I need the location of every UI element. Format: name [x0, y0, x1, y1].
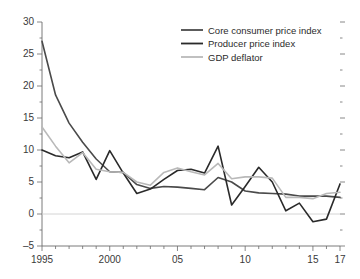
y-tick-group [37, 22, 42, 246]
legend-label: GDP deflator [208, 52, 263, 63]
x-tick-label-group: 1995200005101517 [31, 254, 346, 265]
y-right-tick-group [340, 22, 345, 246]
series-line [42, 41, 340, 197]
series-group [42, 41, 340, 221]
y-tick-label: –5 [23, 240, 35, 251]
chart-container: 302520151050–5 1995200005101517 Core con… [0, 0, 360, 279]
y-axis: 302520151050–5 [23, 16, 345, 251]
legend-label: Core consumer price index [208, 25, 322, 36]
y-tick-label: 15 [23, 112, 35, 123]
x-tick-label: 15 [307, 254, 319, 265]
y-tick-label-group: 302520151050–5 [23, 16, 35, 251]
y-tick-label: 30 [23, 16, 35, 27]
x-tick-group [42, 246, 340, 251]
y-tick-label: 5 [28, 176, 34, 187]
y-tick-label: 10 [23, 144, 35, 155]
x-tick-label: 17 [334, 254, 346, 265]
x-tick-label: 10 [240, 254, 252, 265]
y-tick-label: 0 [28, 208, 34, 219]
y-tick-label: 20 [23, 80, 35, 91]
x-tick-label: 2000 [99, 254, 122, 265]
y-tick-label: 25 [23, 48, 35, 59]
chart-legend: Core consumer price indexProducer price … [181, 25, 322, 63]
line-chart: 302520151050–5 1995200005101517 Core con… [0, 0, 360, 279]
x-tick-label: 05 [172, 254, 184, 265]
legend-label: Producer price index [208, 38, 295, 49]
x-axis: 1995200005101517 [31, 246, 346, 265]
x-tick-label: 1995 [31, 254, 54, 265]
